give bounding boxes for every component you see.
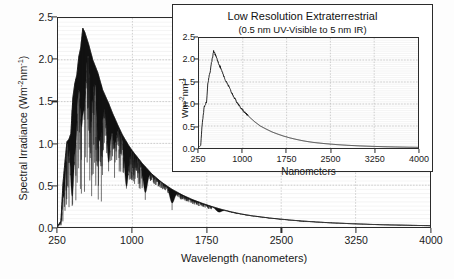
inset-y-axis-label-sup2: -1: [178, 78, 185, 84]
inset-y-axis-label-sup1: -2: [178, 96, 185, 102]
main-y-tick-label: 0.0: [38, 222, 53, 234]
main-y-tick-mark: [52, 59, 57, 60]
main-x-axis-label: Wavelength (nanometers): [57, 252, 431, 264]
inset-x-tick-label: 1750: [276, 154, 296, 164]
main-x-tick-label: 1000: [120, 234, 143, 246]
main-y-axis-label-sup1: -2: [16, 80, 25, 87]
main-y-axis-label-close: ): [17, 56, 29, 60]
main-y-tick-label: 2.5: [38, 11, 53, 23]
inset-subtitle: (0.5 nm UV-Visible to 5 nm IR): [173, 24, 432, 35]
inset-x-tick-label: 4000: [409, 154, 429, 164]
inset-y-tick-mark: [194, 81, 198, 82]
inset-y-tick-mark: [194, 59, 198, 60]
inset-x-tick-label: 250: [190, 154, 205, 164]
inset-y-tick-mark: [194, 126, 198, 127]
main-x-tick-mark: [131, 228, 132, 233]
main-x-tick-mark: [430, 228, 431, 233]
main-y-tick-label: 2.0: [38, 53, 53, 65]
main-y-axis-label: Spectral Irradiance (Wm-2nm-1): [17, 13, 29, 243]
main-x-tick-label: 250: [48, 234, 66, 246]
main-y-tick-label: 1.5: [38, 95, 53, 107]
main-x-tick-mark: [206, 228, 207, 233]
inset-x-tick-label: 1000: [232, 154, 252, 164]
main-x-tick-label: 3250: [345, 234, 368, 246]
inset-x-tick-mark: [374, 149, 375, 153]
main-y-tick-mark: [52, 101, 57, 102]
inset-y-tick-mark: [194, 104, 198, 105]
solar-spectrum-figure: 0.00.51.01.52.02.5 250100017502500325040…: [0, 0, 454, 279]
inset-y-axis-label-text: Wm: [180, 102, 190, 118]
main-x-tick-mark: [356, 228, 357, 233]
main-x-tick-label: 4000: [419, 234, 442, 246]
main-y-tick-mark: [52, 185, 57, 186]
inset-x-tick-mark: [197, 149, 198, 153]
inset-x-axis-label: Nanometers: [198, 166, 419, 177]
main-y-tick-mark: [52, 16, 57, 17]
inset-title: Low Resolution Extraterrestrial: [173, 10, 432, 22]
inset-x-tick-mark: [242, 149, 243, 153]
main-x-tick-mark: [56, 228, 57, 233]
inset-x-tick-mark: [330, 149, 331, 153]
inset-x-tick-mark: [418, 149, 419, 153]
main-y-tick-mark: [52, 143, 57, 144]
main-y-axis-label-sup2: -1: [16, 59, 25, 66]
main-x-tick-label: 1750: [195, 234, 218, 246]
main-x-tick-label: 2500: [270, 234, 293, 246]
main-y-tick-label: 0.5: [38, 180, 53, 192]
main-y-axis-label-text: Spectral Irradiance (Wm: [17, 87, 29, 200]
main-x-tick-mark: [281, 228, 282, 233]
inset-x-tick-label: 2500: [321, 154, 341, 164]
inset-y-tick-mark: [194, 36, 198, 37]
main-y-axis-label-mid: nm: [17, 66, 29, 81]
main-y-tick-label: 1.0: [38, 138, 53, 150]
inset-x-tick-label: 3250: [365, 154, 385, 164]
inset-panel: Low Resolution Extraterrestrial (0.5 nm …: [172, 4, 433, 172]
inset-x-tick-mark: [286, 149, 287, 153]
inset-y-axis-label: Wm-2nm-1: [180, 58, 190, 138]
inset-y-axis-label-mid: nm: [180, 84, 190, 97]
inset-spectrum-curve: [199, 38, 418, 148]
inset-plot-area: [198, 37, 419, 149]
